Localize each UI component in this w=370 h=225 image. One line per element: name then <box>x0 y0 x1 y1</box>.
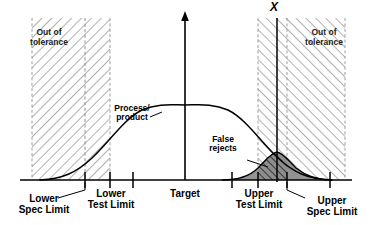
upper-spec-limit-label: Upper Spec Limit <box>295 196 369 218</box>
lower-test-limit-line2: Test Limit <box>72 200 150 211</box>
tolerance-diagram: Out of tolerance Out of tolerance Proces… <box>0 0 370 225</box>
out-of-tolerance-left-line1: Out of <box>10 27 88 37</box>
measured-value-x-label: X <box>270 0 278 14</box>
target-label: Target <box>155 189 215 200</box>
upper-test-limit-line2: Test Limit <box>220 200 298 211</box>
vertical-axis-target <box>181 11 189 180</box>
false-rejects-line2: rejects <box>198 144 248 153</box>
process-product-label: Process/ product <box>101 104 163 123</box>
process-product-line2: product <box>101 113 163 122</box>
out-of-tolerance-label-right: Out of tolerance <box>287 27 361 47</box>
upper-test-limit-label: Upper Test Limit <box>220 189 298 211</box>
lower-test-limit-label: Lower Test Limit <box>72 189 150 211</box>
out-of-tolerance-right-line1: Out of <box>287 27 361 37</box>
out-of-tolerance-left-line2: tolerance <box>10 37 88 47</box>
out-of-tolerance-label-left: Out of tolerance <box>10 27 88 47</box>
out-of-tolerance-right-line2: tolerance <box>287 37 361 47</box>
false-rejects-label: False rejects <box>198 135 248 154</box>
upper-spec-limit-line2: Spec Limit <box>295 207 369 218</box>
